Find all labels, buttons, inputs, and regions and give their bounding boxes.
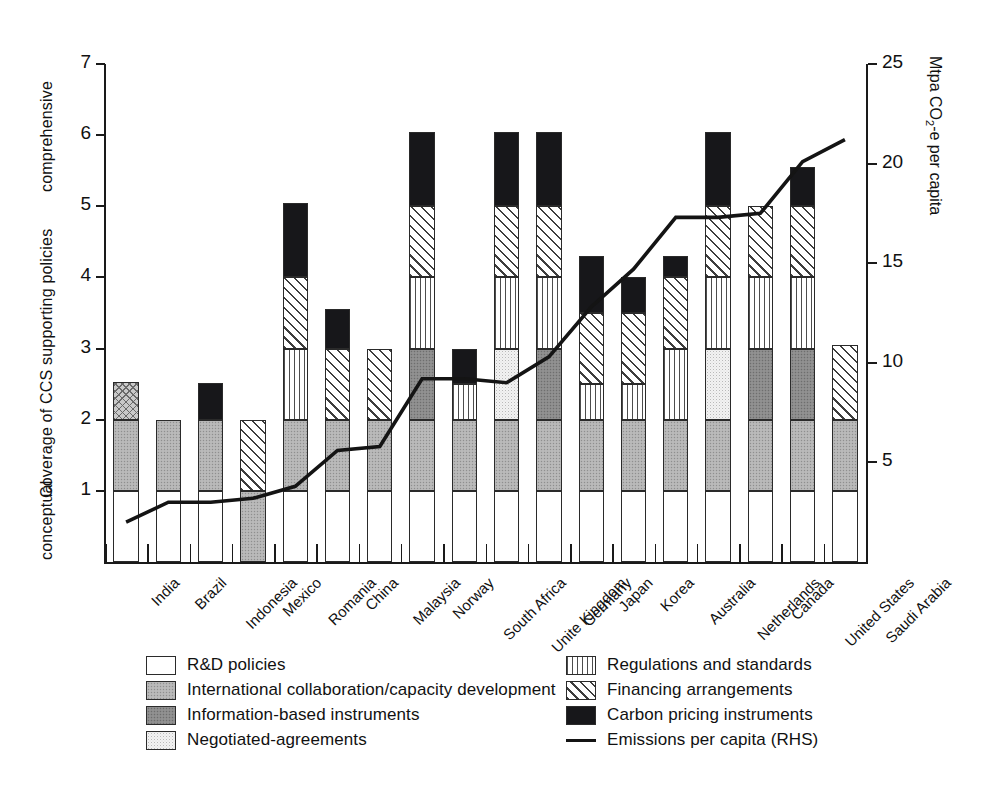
bar-japan[interactable] — [579, 64, 604, 562]
y-tick-label-left: 2 — [57, 407, 91, 429]
bar-segment-intl — [536, 420, 561, 491]
bar-segment-carb — [790, 167, 815, 206]
bar-segment-info — [748, 349, 773, 420]
x-tick-separator — [697, 544, 699, 562]
bar-segment-rd — [579, 491, 604, 562]
bar-romania[interactable] — [283, 64, 308, 562]
legend-item[interactable]: Financing arrangements — [566, 680, 793, 700]
bar-segment-fin — [494, 206, 519, 277]
bar-segment-reg — [705, 277, 730, 348]
y-tick-right — [868, 63, 877, 65]
legend-swatch-nego — [146, 731, 176, 750]
x-tick-separator — [190, 544, 192, 562]
x-tick-separator — [443, 544, 445, 562]
bar-segment-intl — [790, 420, 815, 491]
y-tick-label-left: 5 — [57, 193, 91, 215]
x-label-india: India — [148, 574, 183, 609]
bar-mexico[interactable] — [240, 64, 265, 562]
bar-segment-carb — [283, 203, 308, 278]
bar-segment-nego — [705, 349, 730, 420]
bar-segment-info — [536, 349, 561, 420]
bar-norway[interactable] — [409, 64, 434, 562]
x-tick-separator — [105, 544, 107, 562]
x-label-korea: Korea — [657, 574, 697, 614]
legend-swatch-info — [146, 706, 176, 725]
x-tick-separator — [781, 544, 783, 562]
bar-segment-intl — [409, 420, 434, 491]
y-tick-left — [96, 63, 105, 65]
legend-swatch-fin — [566, 681, 596, 700]
bar-segment-intl — [367, 420, 392, 491]
bar-brazil[interactable] — [156, 64, 181, 562]
legend-item[interactable]: Regulations and standards — [566, 655, 812, 675]
bar-segment-carb — [536, 132, 561, 207]
x-tick-separator — [232, 544, 234, 562]
bar-segment-fin — [832, 345, 857, 420]
bar-segment-fin — [325, 349, 350, 420]
bar-india[interactable] — [113, 64, 138, 562]
y-tick-label-left: 1 — [57, 478, 91, 500]
bar-malaysia[interactable] — [367, 64, 392, 562]
bar-segment-carb — [663, 256, 688, 277]
bar-segment-fin — [536, 206, 561, 277]
bar-segment-fin — [113, 382, 138, 420]
bar-segment-reg — [621, 384, 646, 420]
bar-segment-reg — [748, 277, 773, 348]
y-tick-right — [868, 163, 877, 165]
x-axis-line — [104, 562, 868, 564]
x-tick-separator — [147, 544, 149, 562]
bar-segment-rd — [705, 491, 730, 562]
bar-saudi-arabia[interactable] — [832, 64, 857, 562]
bar-netherlands[interactable] — [705, 64, 730, 562]
bar-united-states[interactable] — [790, 64, 815, 562]
bar-segment-reg — [494, 277, 519, 348]
bar-segment-fin — [409, 206, 434, 277]
bar-segment-rd — [452, 491, 477, 562]
bar-segment-reg — [452, 384, 477, 420]
x-tick-separator — [316, 544, 318, 562]
legend-label: Regulations and standards — [607, 655, 812, 675]
y-axis-label-conceptual: conceptual — [38, 481, 56, 560]
bar-south-africa[interactable] — [452, 64, 477, 562]
bar-canada[interactable] — [748, 64, 773, 562]
legend-item[interactable]: Carbon pricing instruments — [566, 705, 813, 725]
bar-segment-fin — [748, 206, 773, 277]
y-tick-label-right: 20 — [882, 151, 922, 173]
bar-unite-kingdom[interactable] — [494, 64, 519, 562]
bar-segment-carb — [325, 309, 350, 348]
bar-segment-reg — [790, 277, 815, 348]
chart-root: Coverage of CCS supporting policies conc… — [0, 0, 986, 797]
legend-swatch-carb — [566, 706, 596, 725]
bar-segment-intl — [198, 420, 223, 491]
bar-segment-intl — [621, 420, 646, 491]
legend-item[interactable]: R&D policies — [146, 655, 286, 675]
y-tick-right — [868, 362, 877, 364]
bar-segment-fin — [367, 349, 392, 420]
bar-segment-intl — [579, 420, 604, 491]
bar-korea[interactable] — [621, 64, 646, 562]
bar-segment-fin — [579, 313, 604, 384]
x-label-malaysia: Malaysia — [409, 574, 463, 628]
bar-segment-fin — [705, 206, 730, 277]
y-tick-left — [96, 490, 105, 492]
bar-segment-rd — [790, 491, 815, 562]
bar-segment-reg — [409, 277, 434, 348]
bar-segment-intl — [156, 420, 181, 491]
legend-item[interactable]: International collaboration/capacity dev… — [146, 680, 556, 700]
right-axis-post: -e per capita — [927, 126, 944, 215]
legend-item[interactable]: Information-based instruments — [146, 705, 420, 725]
x-tick-separator — [274, 544, 276, 562]
bar-segment-rd — [113, 491, 138, 562]
bar-china[interactable] — [325, 64, 350, 562]
bar-germany[interactable] — [536, 64, 561, 562]
y-tick-label-right: 15 — [882, 250, 922, 272]
bar-segment-reg — [663, 349, 688, 420]
bar-segment-carb — [579, 256, 604, 313]
bar-indonesia[interactable] — [198, 64, 223, 562]
legend-item[interactable]: Negotiated-agreements — [146, 730, 367, 750]
x-tick-separator — [612, 544, 614, 562]
bar-segment-intl — [283, 420, 308, 491]
legend-label: R&D policies — [187, 655, 286, 675]
bar-australia[interactable] — [663, 64, 688, 562]
legend-item[interactable]: Emissions per capita (RHS) — [566, 730, 818, 750]
